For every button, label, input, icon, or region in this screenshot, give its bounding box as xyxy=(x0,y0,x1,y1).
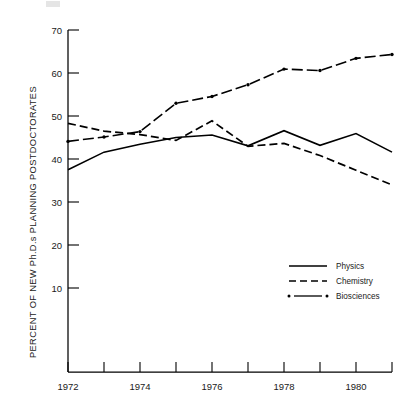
legend-entry-chemistry: Chemistry xyxy=(289,277,374,286)
line-chart: 70 60 50 40 30 20 10 PERCENT OF NEW Ph.D… xyxy=(0,0,419,413)
y-tick-label-40: 40 xyxy=(51,154,62,165)
chart-legend: Physics Chemistry Biosciences xyxy=(288,262,380,301)
series-line-biosciences xyxy=(68,54,392,141)
legend-label-physics: Physics xyxy=(336,262,364,271)
x-tick-label-1980: 1980 xyxy=(345,381,366,392)
series-line-physics xyxy=(68,131,392,170)
dash-dot-right-dot xyxy=(326,295,329,298)
y-tick-label-10: 10 xyxy=(51,283,62,294)
series-markers-biosciences xyxy=(66,53,393,143)
y-tick-label-30: 30 xyxy=(51,197,62,208)
legend-label-chemistry: Chemistry xyxy=(336,277,374,286)
x-axis-ticks xyxy=(68,362,392,372)
y-tick-label-50: 50 xyxy=(51,111,62,122)
legend-entry-physics: Physics xyxy=(289,262,364,271)
dash-dot-left-dot xyxy=(288,295,291,298)
y-tick-label-70: 70 xyxy=(51,25,62,36)
legend-label-biosciences: Biosciences xyxy=(336,292,380,301)
series-line-chemistry xyxy=(68,121,392,185)
x-tick-label-1976: 1976 xyxy=(201,381,222,392)
legend-entry-biosciences: Biosciences xyxy=(288,292,380,301)
x-tick-label-1978: 1978 xyxy=(273,381,294,392)
y-tick-label-60: 60 xyxy=(51,68,62,79)
y-axis-ticks xyxy=(68,30,79,288)
chart-container: 70 60 50 40 30 20 10 PERCENT OF NEW Ph.D… xyxy=(0,0,419,413)
x-tick-label-1972: 1972 xyxy=(57,381,78,392)
y-axis-title: PERCENT OF NEW Ph.D.s PLANNING POSTDOCTO… xyxy=(28,86,38,358)
x-tick-label-1974: 1974 xyxy=(129,381,150,392)
y-tick-label-20: 20 xyxy=(51,240,62,251)
